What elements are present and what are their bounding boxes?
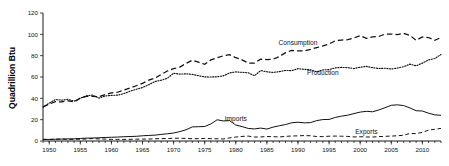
x-tick-label: 2000 (353, 146, 367, 153)
x-tick-label: 1990 (291, 146, 305, 153)
series-label-consumption: Consumption (279, 39, 318, 47)
y-tick-label: 60 (31, 73, 38, 80)
y-tick-label: 0 (35, 137, 39, 144)
x-tick-label: 1995 (322, 146, 336, 153)
x-tick-label: 1950 (42, 146, 56, 153)
chart-canvas: Quadrillion Btu 020406080100120 19501955… (0, 0, 449, 166)
x-tick-label: 1975 (198, 146, 212, 153)
series-annotation-labels: ConsumptionProductionImportsExports (225, 39, 378, 136)
x-axis-ticks: 1950195519601965197019751980198519901995… (42, 141, 429, 153)
y-tick-label: 100 (28, 31, 39, 38)
x-tick-label: 2010 (415, 146, 429, 153)
y-tick-label: 120 (28, 9, 39, 16)
series-label-imports: Imports (225, 115, 248, 123)
series-label-production: Production (307, 69, 339, 76)
x-tick-label: 1955 (73, 146, 87, 153)
y-axis-label-group: Quadrillion Btu (7, 47, 17, 109)
x-tick-label: 1970 (167, 146, 181, 153)
x-tick-label: 1965 (136, 146, 150, 153)
x-tick-label: 2005 (384, 146, 398, 153)
x-tick-label: 1960 (105, 146, 119, 153)
series-label-exports: Exports (355, 128, 378, 136)
series-line-production (43, 54, 441, 107)
y-axis-ticks: 020406080100120 (28, 9, 43, 144)
y-axis-label: Quadrillion Btu (7, 47, 17, 109)
x-tick-label: 1985 (260, 146, 274, 153)
energy-line-chart: Quadrillion Btu 020406080100120 19501955… (0, 0, 449, 166)
y-tick-label: 40 (31, 95, 38, 102)
series-line-imports (43, 105, 441, 140)
data-series-group (43, 33, 441, 139)
series-line-consumption (43, 33, 441, 107)
y-tick-label: 80 (31, 52, 38, 59)
y-tick-label: 20 (31, 116, 38, 123)
x-tick-label: 1980 (229, 146, 243, 153)
